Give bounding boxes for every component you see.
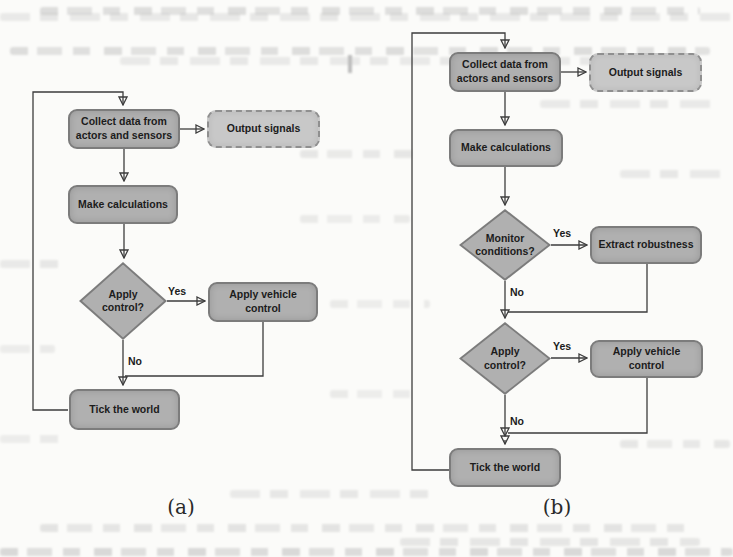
fig-a-node-tick-the-world: Tick the world [69,389,180,430]
fig-b-node-apply-vehicle-control: Apply vehicle control [590,340,703,378]
fig-b-edge-label-no-apply: No [510,415,524,427]
fig-b-edge-label-yes-monitor: Yes [553,227,571,239]
fig-b-decision-apply-control-label: Apply control? [459,322,551,395]
fig-a-node-apply-vehicle-control-label: Apply vehicle control [215,288,311,315]
fig-b-node-make-calculations: Make calculations [449,129,563,167]
fig-b-node-output-signals: Output signals [589,53,702,92]
fig-b-node-collect-data: Collect data from actors and sensors [449,52,561,92]
fig-a-node-collect-data: Collect data from actors and sensors [68,109,180,149]
fig-b-node-collect-data-label: Collect data from actors and sensors [456,58,554,85]
fig-b-decision-apply-control: Apply control? [459,322,551,395]
fig-a-edge-label-no: No [128,355,142,367]
fig-a-node-make-calculations: Make calculations [68,185,178,224]
fig-b-decision-monitor-conditions: Monitor conditions? [459,209,551,281]
fig-a-node-apply-vehicle-control: Apply vehicle control [208,282,318,322]
fig-a-decision-apply-control-label: Apply control? [79,262,167,340]
fig-b-node-make-calculations-label: Make calculations [461,141,551,155]
fig-a-node-output-signals: Output signals [207,110,320,148]
fig-b-node-tick-the-world-label: Tick the world [470,461,540,475]
fig-a-node-collect-data-label: Collect data from actors and sensors [75,115,173,142]
fig-b-caption: (b) [527,495,587,519]
fig-b-node-apply-vehicle-control-label: Apply vehicle control [597,345,696,372]
fig-a-node-output-signals-label: Output signals [227,122,301,136]
scanned-figure-page: Collect data from actors and sensors Out… [0,0,733,557]
fig-b-node-extract-robustness-label: Extract robustness [598,238,693,252]
fig-b-edge-label-yes-apply: Yes [553,340,571,352]
fig-a-caption: (a) [151,495,211,519]
fig-a-node-make-calculations-label: Make calculations [78,198,168,212]
fig-a-decision-apply-control: Apply control? [79,262,167,340]
fig-a-node-tick-the-world-label: Tick the world [89,403,159,417]
fig-b-node-extract-robustness: Extract robustness [590,226,702,264]
fig-b-edge-label-no-monitor: No [510,286,524,298]
fig-b-decision-monitor-conditions-label: Monitor conditions? [459,209,551,281]
fig-b-node-output-signals-label: Output signals [609,66,683,80]
fig-a-edge-label-yes: Yes [168,285,186,297]
fig-b-node-tick-the-world: Tick the world [449,448,561,487]
